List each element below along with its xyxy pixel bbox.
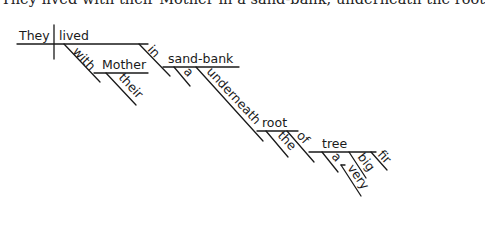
object-word-sand-bank: sand-bank	[168, 51, 234, 66]
object-word-tree: tree	[322, 136, 347, 151]
prep-word-with: with	[70, 44, 99, 74]
subject-word: They	[18, 28, 50, 43]
object-word-mother: Mother	[102, 57, 147, 72]
modifier-word-their: their	[116, 70, 147, 102]
verb-word: lived	[59, 28, 89, 43]
modifier-word-a-tree: a	[329, 149, 345, 165]
prep-word-underneath: underneath	[204, 64, 264, 127]
object-word-root: root	[262, 115, 287, 130]
